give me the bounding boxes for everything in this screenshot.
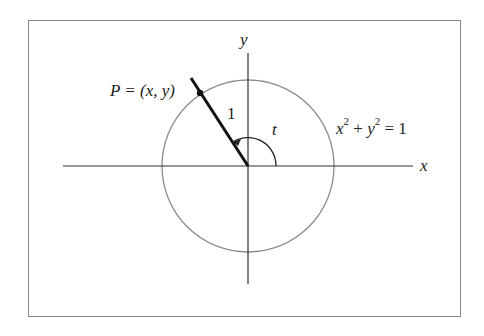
point-p-text: P = (x, y) (110, 81, 175, 100)
y-axis-label: y (240, 30, 248, 50)
x-axis-label: x (420, 156, 428, 176)
eq-y-exp: 2 (375, 115, 381, 127)
eq-y: y (367, 119, 375, 138)
eq-equals: = 1 (384, 119, 406, 138)
eq-plus: + (353, 119, 363, 138)
eq-x-exp: 2 (344, 115, 350, 127)
unit-circle-diagram (0, 0, 484, 336)
point-p-label: P = (x, y) (110, 81, 175, 101)
radius-label: 1 (227, 104, 236, 124)
point-p-marker (197, 90, 203, 96)
eq-x: x (336, 119, 344, 138)
angle-label: t (272, 120, 277, 140)
circle-equation: x2 + y2 = 1 (336, 117, 407, 139)
